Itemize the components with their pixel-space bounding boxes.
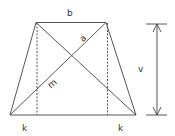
label-v: v (138, 64, 144, 74)
label-b: b (67, 8, 73, 18)
label-k-right: k (118, 123, 124, 133)
diagram-svg: b a m v k k (0, 0, 175, 136)
diagonal-line-2 (10, 23, 106, 116)
trapezoid-diagram: b a m v k k (0, 0, 175, 136)
label-a: a (77, 33, 88, 44)
left-leg-line (10, 23, 36, 116)
label-k-left: k (22, 123, 28, 133)
